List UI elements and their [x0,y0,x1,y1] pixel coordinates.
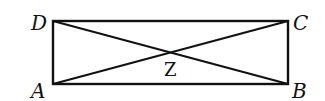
label-a: A [29,79,45,101]
label-c: C [293,11,308,35]
label-z: Z [164,59,177,80]
label-b: B [291,79,307,101]
label-d: D [30,11,47,35]
rectangle-diagram: D C A B Z [0,0,325,101]
